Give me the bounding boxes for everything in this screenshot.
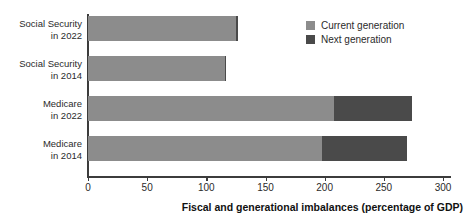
legend-swatch-icon: [306, 21, 315, 30]
bar-segment-next-generation: [322, 136, 407, 161]
bar-segment-current-generation: [88, 96, 334, 121]
cat-label-line-1: Medicare: [2, 98, 82, 110]
cat-label-line-2: in 2022: [2, 30, 82, 42]
x-axis-title: Fiscal and generational imbalances (perc…: [0, 201, 463, 213]
x-axis-tick: [325, 176, 326, 181]
bar-segment-current-generation: [88, 16, 236, 41]
legend-item-current-generation: Current generation: [306, 20, 404, 31]
x-axis-tick-label: 100: [198, 182, 215, 193]
cat-label-line-1: Medicare: [2, 138, 82, 150]
x-axis-tick-label: 50: [142, 182, 153, 193]
legend-swatch-icon: [306, 35, 315, 44]
x-axis-tick-label: 150: [257, 182, 274, 193]
y-axis-label-medicare-2014: Medicare in 2014: [2, 138, 82, 161]
bar-segment-next-generation: [225, 56, 226, 81]
legend-item-next-generation: Next generation: [306, 34, 404, 45]
x-axis-line: [87, 176, 451, 178]
legend-label: Next generation: [321, 34, 392, 45]
cat-label-line-1: Social Security: [2, 58, 82, 70]
x-axis-tick: [147, 176, 148, 181]
x-axis-tick-label: 300: [435, 182, 452, 193]
x-axis-tick-label: 0: [85, 182, 91, 193]
bar-segment-current-generation: [88, 136, 322, 161]
cat-label-line-2: in 2014: [2, 70, 82, 82]
legend: Current generation Next generation: [306, 20, 404, 45]
y-axis-label-medicare-2022: Medicare in 2022: [2, 98, 82, 121]
x-axis-tick: [443, 176, 444, 181]
y-axis-label-social-security-2014: Social Security in 2014: [2, 58, 82, 81]
bar-segment-next-generation: [334, 96, 412, 121]
bar-row: [88, 96, 412, 121]
cat-label-line-2: in 2014: [2, 150, 82, 162]
x-axis-tick: [384, 176, 385, 181]
bar-row: [88, 136, 407, 161]
bar-row: [88, 16, 238, 41]
x-axis-tick: [206, 176, 207, 181]
y-axis-label-social-security-2022: Social Security in 2022: [2, 18, 82, 41]
bar-segment-next-generation: [236, 16, 238, 41]
legend-label: Current generation: [321, 20, 404, 31]
x-axis-tick: [266, 176, 267, 181]
cat-label-line-1: Social Security: [2, 18, 82, 30]
x-axis-tick-label: 250: [375, 182, 392, 193]
x-axis-tick-label: 200: [316, 182, 333, 193]
bar-row: [88, 56, 226, 81]
x-axis-tick: [88, 176, 89, 181]
bar-chart: Social Security in 2022 Social Security …: [0, 0, 471, 223]
bar-segment-current-generation: [88, 56, 225, 81]
cat-label-line-2: in 2022: [2, 110, 82, 122]
